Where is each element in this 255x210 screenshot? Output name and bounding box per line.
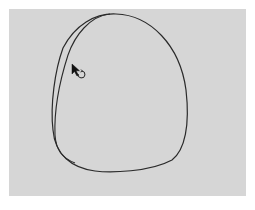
drawing-canvas[interactable] (9, 9, 246, 196)
drawn-shape (9, 9, 246, 196)
rotate-cursor-icon (64, 58, 86, 80)
